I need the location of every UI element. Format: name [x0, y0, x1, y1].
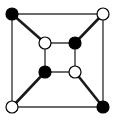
graph-diagram	[0, 0, 121, 131]
node-inner-br-white	[69, 66, 81, 78]
edges-group	[12, 14, 103, 107]
node-outer-bl-white	[6, 101, 18, 113]
node-inner-tr-black	[69, 37, 81, 49]
node-inner-bl-black	[39, 66, 51, 78]
edge-outer-bl-inner-bl	[12, 72, 45, 107]
node-outer-br-black	[97, 101, 109, 113]
node-outer-tr-white	[97, 8, 109, 20]
node-inner-tl-white	[39, 37, 51, 49]
node-outer-tl-black	[6, 8, 18, 20]
cube-graph-svg	[0, 0, 121, 131]
edge-outer-br-inner-br	[75, 72, 103, 107]
